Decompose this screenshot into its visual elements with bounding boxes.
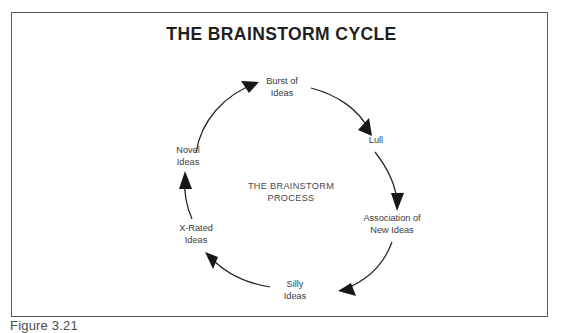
node-novel-ideas-line1: Novel <box>176 145 200 155</box>
node-association-new-ideas-line1: Association of <box>363 213 421 223</box>
node-association-new-ideas-line2: New Ideas <box>370 225 414 235</box>
edge-association-to-silly-arc <box>345 242 392 289</box>
figure-root: THE BRAINSTORM CYCLE <box>0 0 563 333</box>
node-silly-ideas: Silly Ideas <box>284 279 307 301</box>
arrowhead-xrated-to-novel <box>179 171 192 189</box>
edge-silly-to-xrated-arc <box>210 257 270 287</box>
edge-association-to-silly <box>338 242 392 296</box>
node-lull-line1: Lull <box>369 135 383 145</box>
center-process-label-line1: THE BRAINSTORM <box>248 181 334 191</box>
edge-xrated-to-novel <box>179 171 192 219</box>
node-association-new-ideas: Association of New Ideas <box>363 213 421 235</box>
node-silly-ideas-line1: Silly <box>287 279 304 289</box>
arrowhead-novel-to-burst <box>241 81 259 93</box>
edge-silly-to-xrated <box>205 252 270 287</box>
brainstorm-cycle-diagram: Burst of Ideas Lull Association of New I… <box>11 12 548 317</box>
node-x-rated-ideas: X-Rated Ideas <box>179 223 213 245</box>
node-burst-of-ideas: Burst of Ideas <box>266 76 298 98</box>
node-burst-of-ideas-line1: Burst of <box>266 76 298 86</box>
center-process-label: THE BRAINSTORM PROCESS <box>248 181 334 203</box>
node-lull: Lull <box>369 135 383 145</box>
node-burst-of-ideas-line2: Ideas <box>271 88 294 98</box>
arrowhead-lull-to-association <box>391 193 404 211</box>
edge-novel-to-burst-arc <box>196 84 254 153</box>
edge-lull-to-association <box>375 152 404 211</box>
edge-novel-to-burst <box>196 81 259 153</box>
figure-caption: Figure 3.21 <box>10 318 78 333</box>
node-x-rated-ideas-line1: X-Rated <box>179 223 213 233</box>
node-novel-ideas-line2: Ideas <box>177 157 200 167</box>
edge-burst-to-lull <box>311 88 372 136</box>
node-x-rated-ideas-line2: Ideas <box>185 235 208 245</box>
node-novel-ideas: Novel Ideas <box>176 145 200 167</box>
arrowhead-burst-to-lull <box>358 118 372 136</box>
node-silly-ideas-line2: Ideas <box>284 291 307 301</box>
arrowhead-silly-to-xrated <box>205 252 218 269</box>
edge-burst-to-lull-arc <box>311 88 369 130</box>
center-process-label-line2: PROCESS <box>267 193 314 203</box>
